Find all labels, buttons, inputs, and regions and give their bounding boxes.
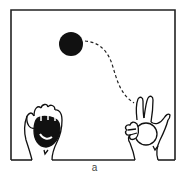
illustration-figure: a — [0, 0, 189, 181]
figure-caption: a — [0, 162, 189, 173]
left-hand-fist-icon — [25, 104, 62, 160]
ball-in-air-icon — [59, 32, 83, 56]
right-hand-holding-ball-icon — [126, 96, 170, 160]
trajectory-path — [85, 41, 134, 103]
